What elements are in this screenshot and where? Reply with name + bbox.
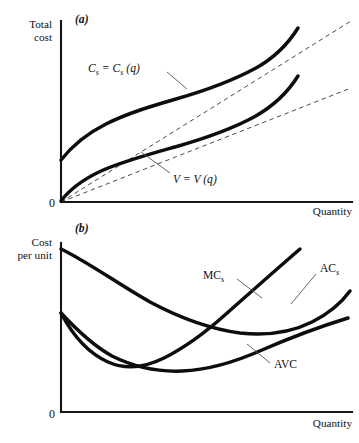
- panel-b-marginal-cost-label-prefix: MC: [203, 269, 221, 282]
- panel-b: (b) Cost per unit Quantity 0 MCs ACs AVC: [18, 222, 353, 429]
- panel-a-y-axis-label-line1: Total: [29, 18, 52, 30]
- cost-curves-figure: (a) Total cost Quantity 0 Cs = Cs (q) V …: [0, 0, 359, 443]
- panel-b-average-cost-curve: [61, 249, 350, 334]
- panel-b-y-axis-label-line1: Cost: [31, 236, 52, 248]
- panel-a-total-cost-label-mid: = C: [99, 62, 121, 75]
- panel-a-total-cost-label-suffix: (q): [123, 62, 140, 75]
- panel-b-average-cost-label-sub: s: [336, 268, 339, 277]
- figure-svg: (a) Total cost Quantity 0 Cs = Cs (q) V …: [0, 0, 359, 443]
- panel-b-marginal-cost-label: MCs: [203, 269, 224, 284]
- panel-b-average-variable-cost-curve: [61, 313, 348, 371]
- panel-a-total-cost-label: Cs = Cs (q): [88, 62, 140, 77]
- panel-a-x-axis-label: Quantity: [313, 205, 353, 217]
- panel-b-origin-label: 0: [49, 407, 55, 421]
- panel-a: (a) Total cost Quantity 0 Cs = Cs (q) V …: [29, 13, 352, 217]
- panel-a-total-cost-leader: [167, 72, 187, 89]
- panel-a-variable-cost-label: V = V (q): [173, 173, 217, 186]
- panel-b-marginal-cost-label-sub: s: [221, 275, 224, 284]
- panel-b-x-axis-label: Quantity: [313, 417, 353, 429]
- panel-b-y-axis-label-line2: per unit: [18, 249, 53, 261]
- panel-b-average-variable-cost-label: AVC: [274, 358, 297, 371]
- panel-a-variable-cost-leader: [141, 152, 170, 173]
- panel-b-average-cost-leader: [291, 274, 316, 304]
- panel-a-origin-label: 0: [49, 196, 55, 210]
- svg-text:Cs = Cs (q): Cs = Cs (q): [88, 62, 140, 77]
- panel-b-average-cost-label: ACs: [320, 262, 339, 277]
- panel-b-tag: (b): [75, 222, 89, 235]
- panel-a-tag: (a): [75, 13, 89, 26]
- panel-a-total-cost-curve: [61, 28, 298, 160]
- panel-b-average-cost-label-prefix: AC: [320, 262, 336, 275]
- panel-a-y-axis-label-line2: cost: [34, 31, 53, 43]
